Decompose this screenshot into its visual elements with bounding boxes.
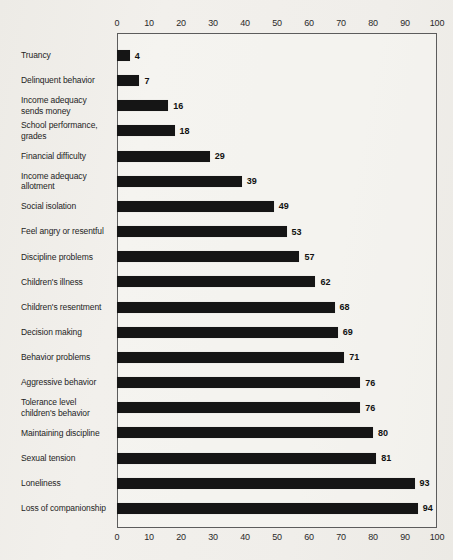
axis-tick-label: 70	[336, 18, 346, 28]
value-label: 29	[215, 151, 225, 161]
category-label: Children's resentment	[0, 302, 117, 313]
axis-tick-label: 50	[272, 532, 282, 542]
axis-tick-label: 40	[240, 532, 250, 542]
bar-track: 39	[117, 169, 453, 194]
axis-tick-label: 30	[208, 532, 218, 542]
axis-tick-label: 0	[115, 18, 120, 28]
value-label: 16	[173, 101, 183, 111]
chart-rows: Truancy4Delinquent behavior7Income adequ…	[0, 33, 453, 528]
chart-row: Maintaining discipline80	[0, 420, 453, 445]
x-axis-top: 0102030405060708090100	[0, 18, 453, 30]
value-label: 39	[247, 176, 257, 186]
value-label: 93	[420, 478, 430, 488]
chart-row: Tolerance level children's behavior76	[0, 395, 453, 420]
bar-track: 7	[117, 68, 453, 93]
category-label: Social isolation	[0, 201, 117, 212]
bar	[117, 402, 360, 413]
axis-tick-label: 80	[368, 532, 378, 542]
bar-track: 4	[117, 43, 453, 68]
axis-tick-label: 90	[400, 532, 410, 542]
axis-tick-label: 80	[368, 18, 378, 28]
axis-tick-label: 0	[115, 532, 120, 542]
bar	[117, 427, 373, 438]
chart-row: Discipline problems57	[0, 244, 453, 269]
value-label: 81	[381, 453, 391, 463]
axis-tick-label: 100	[430, 18, 444, 28]
chart-row: Feel angry or resentful53	[0, 219, 453, 244]
category-label: Tolerance level children's behavior	[0, 397, 117, 418]
x-axis-bottom: 0102030405060708090100	[0, 532, 453, 544]
bar-track: 81	[117, 446, 453, 471]
bar-track: 93	[117, 471, 453, 496]
bar	[117, 226, 287, 237]
value-label: 71	[349, 352, 359, 362]
chart-row: Decision making69	[0, 320, 453, 345]
category-label: Sexual tension	[0, 453, 117, 464]
bar-track: 94	[117, 496, 453, 521]
value-label: 7	[144, 76, 149, 86]
value-label: 80	[378, 428, 388, 438]
bar	[117, 276, 315, 287]
bar	[117, 151, 210, 162]
category-label: Truancy	[0, 50, 117, 61]
category-label: Financial difficulty	[0, 151, 117, 162]
axis-tick-label: 90	[400, 18, 410, 28]
bar	[117, 50, 130, 61]
axis-tick-label: 100	[430, 532, 444, 542]
value-label: 76	[365, 403, 375, 413]
bar	[117, 352, 344, 363]
chart-row: Loneliness93	[0, 471, 453, 496]
bar-track: 62	[117, 269, 453, 294]
value-label: 57	[304, 252, 314, 262]
category-label: Loneliness	[0, 478, 117, 489]
chart-row: Delinquent behavior7	[0, 68, 453, 93]
bar-chart-figure: 0102030405060708090100 Truancy4Delinquen…	[0, 0, 453, 560]
bar	[117, 201, 274, 212]
bar-track: 76	[117, 370, 453, 395]
bar-track: 57	[117, 244, 453, 269]
category-label: Delinquent behavior	[0, 75, 117, 86]
value-label: 68	[340, 302, 350, 312]
value-label: 94	[423, 503, 433, 513]
bar	[117, 100, 168, 111]
chart-row: Behavior problems71	[0, 345, 453, 370]
chart-row: Truancy4	[0, 43, 453, 68]
chart-row: Aggressive behavior76	[0, 370, 453, 395]
value-label: 4	[135, 51, 140, 61]
axis-tick-label: 50	[272, 18, 282, 28]
category-label: Loss of companionship	[0, 503, 117, 514]
chart-row: Social isolation49	[0, 194, 453, 219]
category-label: Discipline problems	[0, 252, 117, 263]
category-label: Children's illness	[0, 277, 117, 288]
axis-tick-label: 20	[176, 18, 186, 28]
bar-track: 76	[117, 395, 453, 420]
bar	[117, 377, 360, 388]
bar-track: 49	[117, 194, 453, 219]
bar-track: 71	[117, 345, 453, 370]
category-label: Aggressive behavior	[0, 377, 117, 388]
bar	[117, 75, 139, 86]
axis-tick-label: 60	[304, 18, 314, 28]
chart-row: Income adequacy allotment39	[0, 169, 453, 194]
axis-tick-label: 20	[176, 532, 186, 542]
value-label: 53	[292, 227, 302, 237]
value-label: 49	[279, 201, 289, 211]
category-label: Feel angry or resentful	[0, 226, 117, 237]
chart-row: Children's illness62	[0, 269, 453, 294]
chart-row: Sexual tension81	[0, 446, 453, 471]
bar-track: 29	[117, 144, 453, 169]
category-label: Income adequacy sends money	[0, 95, 117, 116]
chart-row: Financial difficulty29	[0, 144, 453, 169]
axis-tick-label: 60	[304, 532, 314, 542]
chart-row: School performance, grades18	[0, 118, 453, 143]
bar	[117, 453, 376, 464]
category-label: Decision making	[0, 327, 117, 338]
bar	[117, 478, 415, 489]
bar-track: 68	[117, 295, 453, 320]
value-label: 62	[320, 277, 330, 287]
chart-row: Income adequacy sends money16	[0, 93, 453, 118]
value-label: 76	[365, 378, 375, 388]
category-label: Income adequacy allotment	[0, 171, 117, 192]
axis-tick-label: 70	[336, 532, 346, 542]
chart-row: Children's resentment68	[0, 295, 453, 320]
